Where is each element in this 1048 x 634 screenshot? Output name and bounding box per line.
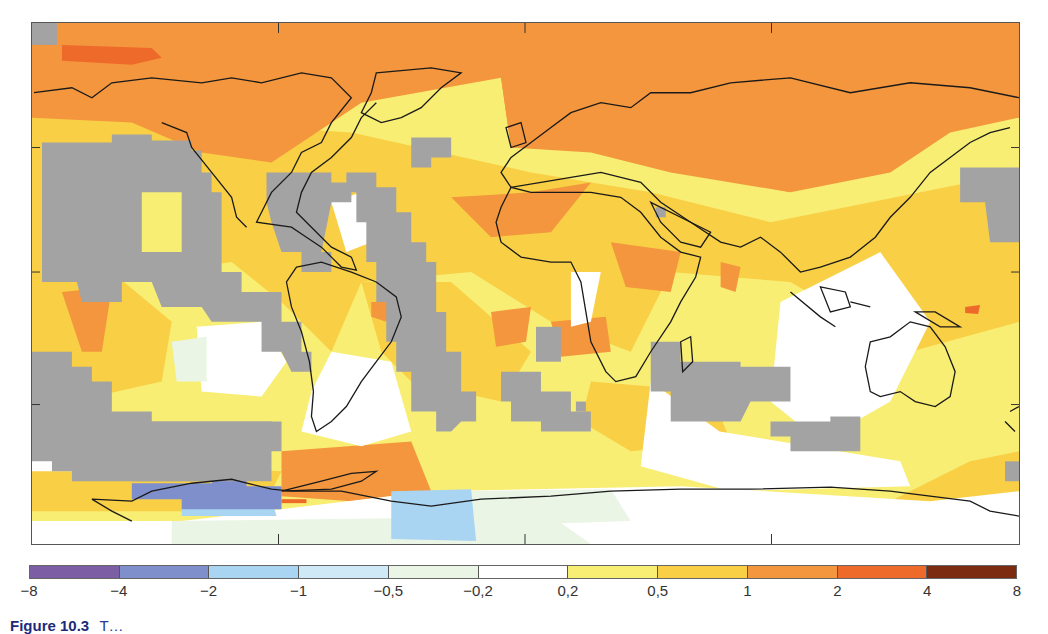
- legend-tick-label: 2: [833, 582, 841, 599]
- legend-tick-label: −0,2: [463, 582, 493, 599]
- legend-tick-label: −0,5: [373, 582, 403, 599]
- temperature-anomaly-map: [31, 22, 1020, 545]
- legend-swatch: [658, 566, 748, 578]
- legend-swatch: [389, 566, 479, 578]
- map-canvas: [32, 23, 1019, 544]
- legend-tick-label: −4: [110, 582, 127, 599]
- legend-tick-label: 0,5: [647, 582, 668, 599]
- legend-swatch: [568, 566, 658, 578]
- legend-swatch: [927, 566, 1016, 578]
- color-legend-bar: [29, 565, 1017, 579]
- legend-swatch: [209, 566, 299, 578]
- legend-swatch: [30, 566, 120, 578]
- legend-tick-label: −1: [290, 582, 307, 599]
- figure-caption: Figure 10.3 T…: [10, 617, 124, 634]
- legend-tick-label: −2: [200, 582, 217, 599]
- figure-caption-text: T…: [99, 617, 123, 634]
- figure-number: Figure 10.3: [10, 617, 89, 634]
- legend-tick-label: 1: [743, 582, 751, 599]
- legend-tick-label: 0,2: [557, 582, 578, 599]
- legend-tick-label: 4: [923, 582, 931, 599]
- legend-tick-label: 8: [1013, 582, 1021, 599]
- legend-swatch: [120, 566, 210, 578]
- legend-tick-label: −8: [20, 582, 37, 599]
- legend-swatch: [299, 566, 389, 578]
- legend-swatch: [748, 566, 838, 578]
- legend-swatch: [479, 566, 569, 578]
- color-legend-ticks: −8−4−2−1−0,5−0,20,20,51248: [0, 582, 1048, 602]
- legend-swatch: [838, 566, 928, 578]
